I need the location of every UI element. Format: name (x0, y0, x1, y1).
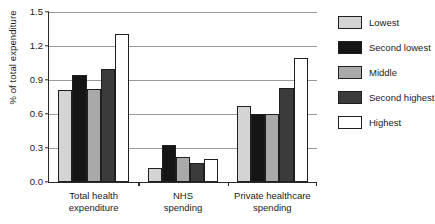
plot-area: 0.00.30.60.91.21.5 Total healthexpenditu… (48, 12, 317, 183)
y-axis-tick-label: 0.3 (30, 143, 43, 153)
x-axis-tick-mark (316, 182, 317, 186)
y-axis-tick-label: 1.2 (30, 41, 43, 51)
legend-label: Lowest (369, 18, 399, 28)
legend-item: Middle (338, 60, 428, 85)
legend-swatch (338, 116, 362, 129)
legend-label: Second highest (369, 93, 435, 103)
bar (58, 90, 72, 182)
bar (294, 58, 308, 182)
legend-swatch (338, 91, 362, 104)
legend-item: Second highest (338, 85, 428, 110)
bar (148, 168, 162, 182)
y-axis-tick-label: 0.9 (30, 75, 43, 85)
x-axis-group-label-line: expenditure (69, 202, 119, 214)
legend: LowestSecond lowestMiddleSecond highestH… (338, 10, 428, 135)
gridline (49, 182, 317, 183)
bar (87, 89, 101, 182)
x-axis-group-label-line: NHS (164, 190, 203, 202)
x-axis-tick-mark (228, 182, 229, 186)
x-axis-group-label-line: spending (164, 202, 203, 214)
bar (265, 114, 279, 182)
y-axis-tick-label: 0.6 (30, 109, 43, 119)
x-axis-group-label-line: Private healthcare (234, 190, 311, 202)
legend-label: Middle (369, 68, 397, 78)
x-axis-group-label: Total healthexpenditure (69, 190, 119, 213)
bar (204, 159, 218, 182)
bar (237, 106, 251, 182)
y-axis-title: % of total expenditure (7, 0, 18, 128)
x-axis-group-label-line: spending (234, 202, 311, 214)
bar (101, 69, 115, 182)
bar (115, 34, 129, 182)
legend-item: Second lowest (338, 35, 428, 60)
bar (279, 88, 293, 182)
x-axis-group-label: NHSspending (164, 190, 203, 213)
legend-label: Second lowest (369, 43, 431, 53)
legend-item: Lowest (338, 10, 428, 35)
legend-item: Highest (338, 110, 428, 135)
legend-swatch (338, 16, 362, 29)
legend-swatch (338, 66, 362, 79)
x-axis-group-label-line: Total health (69, 190, 119, 202)
y-axis-tick-label: 1.5 (30, 7, 43, 17)
bar (251, 114, 265, 182)
legend-label: Highest (369, 118, 401, 128)
x-axis-tick-mark (138, 182, 139, 186)
y-axis-tick-label: 0.0 (30, 177, 43, 187)
bar (162, 145, 176, 182)
bar (72, 75, 86, 182)
bars-layer (49, 12, 317, 182)
bar (176, 157, 190, 182)
x-axis-group-label: Private healthcarespending (234, 190, 311, 213)
legend-swatch (338, 41, 362, 54)
bar (190, 163, 204, 182)
